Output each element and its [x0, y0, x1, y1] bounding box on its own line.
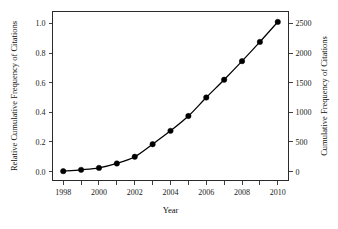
- svg-text:0: 0: [296, 168, 300, 177]
- svg-text:2000: 2000: [91, 188, 107, 197]
- data-point-marker: [78, 167, 83, 172]
- svg-text:1500: 1500: [296, 79, 312, 88]
- svg-text:2004: 2004: [163, 188, 179, 197]
- data-point-marker: [275, 19, 280, 24]
- data-point-marker: [114, 161, 119, 166]
- svg-text:2500: 2500: [296, 19, 312, 28]
- svg-text:2006: 2006: [198, 188, 214, 197]
- svg-text:0.6: 0.6: [36, 79, 46, 88]
- data-point-marker: [186, 113, 191, 118]
- svg-text:1998: 1998: [55, 188, 71, 197]
- svg-text:0.4: 0.4: [36, 108, 46, 117]
- y-axis-right-title: Cumulative Frequency of Citations: [319, 36, 329, 156]
- svg-text:0.8: 0.8: [36, 49, 46, 58]
- svg-text:0.2: 0.2: [36, 138, 46, 147]
- svg-text:500: 500: [296, 138, 308, 147]
- svg-text:2002: 2002: [127, 188, 143, 197]
- svg-text:2008: 2008: [234, 188, 250, 197]
- data-point-marker: [221, 77, 226, 82]
- x-axis-title: Year: [163, 205, 179, 215]
- svg-text:2000: 2000: [296, 49, 312, 58]
- data-point-marker: [132, 154, 137, 159]
- data-point-marker: [61, 168, 66, 173]
- svg-text:2010: 2010: [270, 188, 286, 197]
- svg-text:1.0: 1.0: [36, 19, 46, 28]
- data-point-marker: [257, 39, 262, 44]
- svg-text:1000: 1000: [296, 108, 312, 117]
- data-point-marker: [96, 165, 101, 170]
- data-point-marker: [204, 95, 209, 100]
- data-point-marker: [150, 141, 155, 146]
- citation-growth-chart-figure: 1998200020022004200620082010 0.00.20.40.…: [0, 0, 338, 229]
- data-point-marker: [239, 58, 244, 63]
- data-point-marker: [168, 128, 173, 133]
- chart-canvas: 1998200020022004200620082010 0.00.20.40.…: [0, 0, 338, 229]
- svg-text:0.0: 0.0: [36, 168, 46, 177]
- y-axis-left-title: Relative Cumulative Frequency of Citatio…: [9, 21, 19, 171]
